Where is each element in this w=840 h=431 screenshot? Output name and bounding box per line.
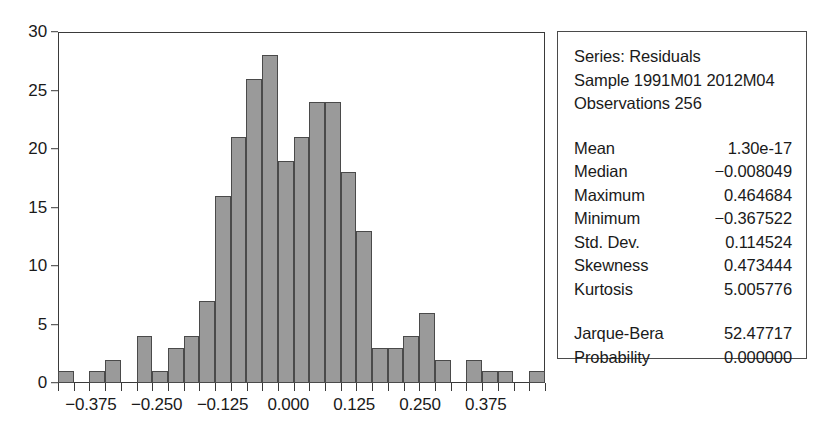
y-axis-tick-mark — [51, 207, 58, 208]
histogram-bar — [58, 371, 74, 383]
statistic-value: 5.005776 — [724, 278, 792, 302]
statistic-label: Mean — [574, 137, 615, 161]
histogram-bar — [356, 231, 372, 383]
x-axis-tick-mark — [184, 383, 185, 391]
x-axis-tick-mark — [388, 383, 389, 391]
histogram-bin — [246, 32, 262, 383]
statistics-rows: Mean1.30e-17Median−0.008049Maximum0.4646… — [574, 137, 792, 302]
histogram-bar — [325, 102, 341, 383]
statistic-row: Std. Dev.0.114524 — [574, 231, 792, 255]
x-axis-tick-mark — [529, 383, 530, 391]
histogram-bin — [294, 32, 310, 383]
histogram-bin — [184, 32, 200, 383]
y-axis-tick-mark — [51, 382, 58, 383]
statistic-row: Median−0.008049 — [574, 160, 792, 184]
histogram-bar — [137, 336, 153, 383]
y-axis-tick-mark — [51, 90, 58, 91]
histogram-bar — [309, 102, 325, 383]
statistic-row: Minimum−0.367522 — [574, 207, 792, 231]
x-axis-tick-label: −0.375 — [65, 395, 116, 415]
histogram-bar — [403, 336, 419, 383]
x-axis-tick-mark — [451, 383, 452, 391]
histogram-bin — [262, 32, 278, 383]
x-axis-tick-mark — [325, 383, 326, 391]
statistics-header: Series: ResidualsSample 1991M01 2012M04O… — [574, 45, 792, 116]
statistic-label: Maximum — [574, 184, 645, 208]
histogram-bin — [74, 32, 90, 383]
x-axis-tick-mark — [545, 383, 546, 391]
statistic-value: −0.367522 — [714, 207, 792, 231]
x-axis-tick-mark — [278, 383, 279, 391]
x-axis-tick-mark — [137, 383, 138, 391]
histogram-bars — [58, 32, 545, 383]
x-axis-tick-mark — [294, 383, 295, 391]
histogram-bin — [372, 32, 388, 383]
statistic-row: Kurtosis5.005776 — [574, 278, 792, 302]
y-axis-tick-mark — [51, 265, 58, 266]
histogram-bar — [419, 313, 435, 383]
histogram-bin — [168, 32, 184, 383]
statistic-label: Probability — [574, 346, 650, 370]
statistic-label: Std. Dev. — [574, 231, 640, 255]
x-axis-tick-mark — [482, 383, 483, 391]
x-axis-tick-mark — [498, 383, 499, 391]
y-axis-tick-mark — [51, 31, 58, 32]
x-axis-tick-mark — [121, 383, 122, 391]
x-axis-tick-label: 0.250 — [399, 395, 441, 415]
statistic-label: Skewness — [574, 254, 648, 278]
histogram-bar — [498, 371, 514, 383]
histogram-bin — [58, 32, 74, 383]
histogram-bar — [435, 360, 451, 383]
statistic-label: Jarque-Bera — [574, 322, 664, 346]
x-axis-tick-mark — [247, 383, 248, 391]
x-axis-tick-mark — [168, 383, 169, 391]
x-axis-tick-mark — [262, 383, 263, 391]
statistics-spacer — [574, 116, 792, 137]
histogram-bin — [466, 32, 482, 383]
x-axis-tick-mark — [514, 383, 515, 391]
statistics-header-line: Observations 256 — [574, 92, 792, 116]
x-axis-tick-mark — [89, 383, 90, 391]
statistics-header-line: Series: Residuals — [574, 45, 792, 69]
x-axis-tick-label: 0.000 — [268, 395, 310, 415]
histogram-bar — [184, 336, 200, 383]
statistic-row: Skewness0.473444 — [574, 254, 792, 278]
histogram-bin — [231, 32, 247, 383]
histogram-bin — [403, 32, 419, 383]
residual-histogram-figure: 051015202530 −0.375−0.250−0.1250.0000.12… — [0, 0, 840, 431]
histogram-bar — [215, 196, 231, 383]
histogram-bin — [435, 32, 451, 383]
histogram-bar — [482, 371, 498, 383]
x-axis-tick-mark — [58, 383, 59, 391]
x-axis-tick-mark — [404, 383, 405, 391]
histogram-bin — [278, 32, 294, 383]
x-axis-tick-mark — [152, 383, 153, 391]
statistic-row: Maximum0.464684 — [574, 184, 792, 208]
histogram-bar — [341, 172, 357, 383]
histogram-bin — [419, 32, 435, 383]
normality-test-row: Probability0.000000 — [574, 346, 792, 370]
statistic-value: 0.000000 — [724, 346, 792, 370]
histogram-bar — [89, 371, 105, 383]
histogram-bar — [262, 55, 278, 383]
x-axis-tick-mark — [215, 383, 216, 391]
statistic-value: 0.114524 — [725, 231, 792, 255]
histogram-bin — [199, 32, 215, 383]
x-axis-tick-label: 0.125 — [333, 395, 375, 415]
x-axis-tick-mark — [199, 383, 200, 391]
histogram-bar — [199, 301, 215, 383]
histogram-bin — [89, 32, 105, 383]
y-axis-tick-mark — [51, 324, 58, 325]
y-axis-tick-mark — [51, 148, 58, 149]
statistics-panel: Series: ResidualsSample 1991M01 2012M04O… — [557, 31, 807, 359]
histogram-bin — [451, 32, 467, 383]
x-axis-tick-label: −0.250 — [131, 395, 182, 415]
histogram-bin — [498, 32, 514, 383]
histogram-bin — [121, 32, 137, 383]
x-axis-tick-mark — [231, 383, 232, 391]
x-axis-tick-mark — [105, 383, 106, 391]
histogram-bar — [278, 161, 294, 383]
histogram-bar — [529, 371, 545, 383]
x-axis-tick-mark — [309, 383, 310, 391]
x-axis-tick-mark — [356, 383, 357, 391]
